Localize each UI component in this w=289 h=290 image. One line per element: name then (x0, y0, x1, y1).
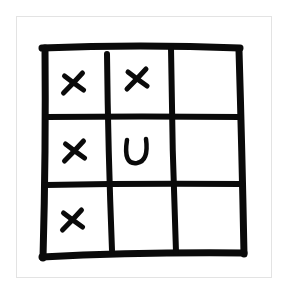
board-cell-1-2[interactable] (110, 50, 172, 116)
board-cell-3-1[interactable] (48, 186, 107, 254)
game-board (0, 0, 289, 290)
board-border-left (43, 48, 45, 258)
board-cell-1-1[interactable] (48, 50, 107, 116)
board-cell-2-2[interactable] (110, 118, 172, 184)
board-cell-3-2[interactable] (110, 186, 172, 254)
grid-line-horizontal-1 (46, 117, 241, 118)
board-cell-2-3[interactable] (175, 118, 240, 184)
board-cell-1-3[interactable] (175, 50, 240, 116)
board-cell-2-1[interactable] (48, 118, 107, 184)
board-cell-3-3[interactable] (175, 186, 240, 254)
board-border-top (42, 46, 240, 48)
